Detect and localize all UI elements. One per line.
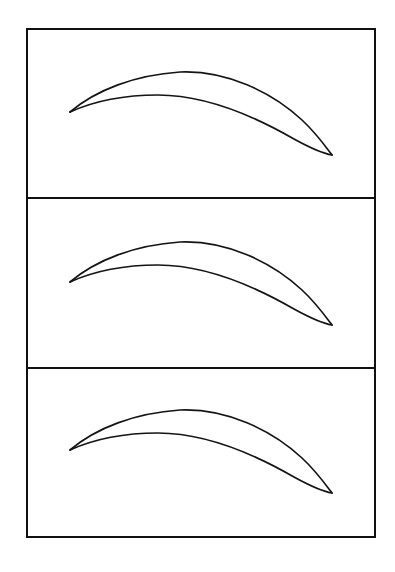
panel-middle-frame: [27, 198, 375, 368]
panel-top: [27, 29, 375, 198]
panel-bottom: [27, 368, 375, 537]
figure-container: [0, 0, 395, 572]
airfoil-figure-svg: [0, 0, 395, 572]
panel-bottom-frame: [27, 368, 375, 537]
panel-top-frame: [27, 29, 375, 198]
panel-middle: [27, 198, 375, 368]
